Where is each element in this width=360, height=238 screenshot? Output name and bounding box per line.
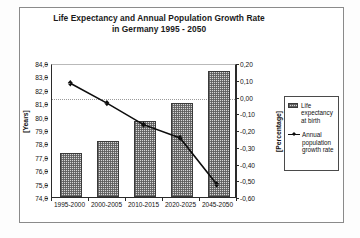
y-axis-left-tick-mark [45,91,48,92]
chart-title: Life Expectancy and Annual Population Gr… [19,13,299,34]
x-axis-tick-mark [162,198,163,201]
x-axis-tick-label: 1995-2000 [50,201,90,208]
y-axis-left-tick-mark [45,198,48,199]
bar-swatch-icon [288,103,298,108]
x-axis-tick-label: 2045-2050 [198,201,238,208]
y-axis-left-title: [Years] [22,110,29,133]
x-axis: 1995-20002000-20052010-20152020-20252045… [51,201,237,215]
y-axis-right-tick-label: -0,10 [240,111,268,118]
line-path [70,83,216,184]
y-axis-right-tick-label: 0,10 [240,77,268,84]
x-axis-tick-label: 2010-2015 [124,201,164,208]
y-axis-left-tick-mark [45,185,48,186]
legend-item-growth-rate-label: Annual population growth rate [302,131,334,153]
y-axis-left-tick-mark [45,158,48,159]
x-axis-tick-mark [199,198,200,201]
y-axis-right-tick-label: -0,30 [240,144,268,151]
y-axis-right: 0,200,100,00-0,10-0,20-0,30-0,40-0,50-0,… [240,64,270,198]
y-axis-left-tick-mark [45,171,48,172]
y-axis-right-tick-label: -0,50 [240,178,268,185]
line-marker [68,80,73,86]
legend-item-growth-rate[interactable]: Annual population growth rate [288,131,335,153]
chart-title-line-2: in Germany 1995 - 2050 [19,24,299,35]
y-axis-right-tick-label: 0,00 [240,94,268,101]
line-marker-swatch-icon [288,131,300,138]
chart-title-line-1: Life Expectancy and Annual Population Gr… [53,13,265,23]
y-axis-left-tick-mark [45,104,48,105]
chart-legend: Life expectancy at birth Annual populati… [284,96,339,171]
y-axis-right-tick-label: 0,20 [240,61,268,68]
plot-area [51,64,236,198]
y-axis-left-tick-mark [45,64,48,65]
y-axis-left-tick-mark [45,77,48,78]
y-axis-left-tick-mark [45,144,48,145]
y-axis-right-line [236,64,237,199]
x-axis-tick-mark [88,198,89,201]
chart-screenshot: Life Expectancy and Annual Population Gr… [0,0,360,238]
x-axis-tick-label: 2020-2025 [161,201,201,208]
x-axis-tick-mark [51,198,52,201]
y-axis-left-tick-mark [45,118,48,119]
x-axis-tick-label: 2000-2005 [87,201,127,208]
y-axis-right-title: [Percentage] [275,111,282,152]
x-axis-tick-mark [125,198,126,201]
y-axis-left-tick-mark [45,131,48,132]
x-axis-tick-mark [236,198,237,201]
legend-item-life-expectancy-label: Life expectancy at birth [301,102,333,124]
legend-item-life-expectancy[interactable]: Life expectancy at birth [288,102,335,124]
y-axis-right-tick-label: -0,40 [240,161,268,168]
y-axis-right-tick-label: -0,60 [240,195,268,202]
line-series-layer [52,65,235,198]
y-axis-right-tick-label: -0,20 [240,128,268,135]
